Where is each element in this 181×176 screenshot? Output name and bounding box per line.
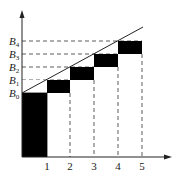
block-3: [70, 67, 94, 80]
step-blocks: [22, 41, 142, 157]
x-tick-4: 4: [115, 160, 121, 172]
block-2: [47, 80, 70, 93]
x-tick-5: 5: [139, 160, 145, 172]
y-label-b3: B3: [9, 48, 20, 62]
y-label-b4: B4: [9, 35, 20, 49]
block-5: [118, 41, 142, 54]
y-label-b2: B2: [9, 61, 20, 75]
linear-function-line: [22, 27, 143, 93]
x-tick-labels: 1 2 3 4 5: [44, 160, 145, 172]
x-tick-2: 2: [67, 160, 73, 172]
y-tick-labels: B0 B1 B2 B3 B4: [9, 35, 20, 101]
y-label-b0: B0: [9, 87, 20, 101]
block-4: [94, 54, 118, 67]
step-diagram: 1 2 3 4 5 B0 B1 B2 B3 B4: [0, 0, 181, 176]
y-label-b1: B1: [9, 74, 20, 88]
block-1: [22, 93, 47, 157]
x-tick-1: 1: [44, 160, 50, 172]
x-tick-3: 3: [91, 160, 97, 172]
y-axis-arrow-icon: [20, 10, 25, 18]
x-axis-arrow-icon: [164, 155, 172, 160]
